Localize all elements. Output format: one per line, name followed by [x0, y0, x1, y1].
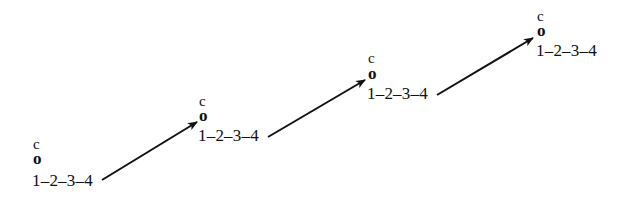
node-marker-icon: o: [199, 107, 208, 124]
arrow-3-to-4: [437, 38, 533, 95]
node-marker-icon: o: [368, 65, 377, 82]
arrow-2-to-3: [268, 80, 365, 137]
node-label: 1–2–3–4: [32, 172, 93, 189]
node-label: 1–2–3–4: [367, 85, 428, 102]
arrow-1-to-2: [102, 122, 197, 180]
node-label: 1–2–3–4: [198, 127, 259, 144]
node-marker-icon: o: [537, 22, 546, 39]
node-label: 1–2–3–4: [536, 42, 597, 59]
node-marker-icon: o: [33, 150, 42, 167]
